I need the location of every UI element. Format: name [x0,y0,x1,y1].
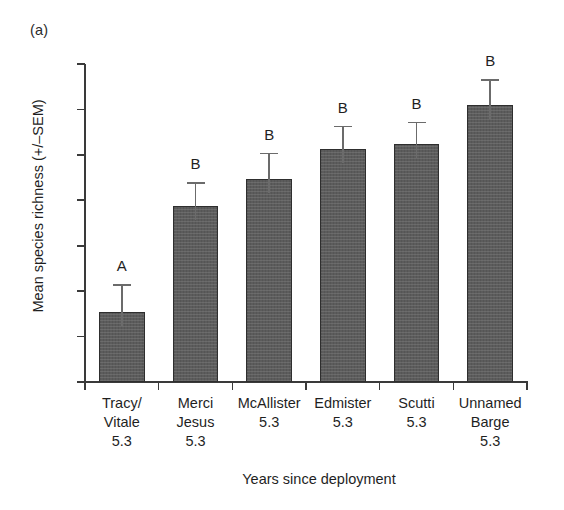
error-bar-cap [260,153,278,155]
bar-texture [395,145,439,381]
y-tick [77,109,85,111]
panel-label: (a) [30,22,48,38]
y-tick [77,290,85,292]
x-tick [158,381,160,390]
significance-letter: B [470,53,510,68]
bar-texture [321,150,365,381]
bar [320,149,366,382]
error-bar-stem [195,182,197,220]
bar [246,179,292,382]
significance-letter: B [397,96,437,111]
x-axis-title: Years since deployment [0,471,564,487]
significance-letter: B [176,156,216,171]
bar [173,206,219,382]
y-tick [77,63,85,65]
error-bar-stem [489,79,491,118]
error-bar-cap [481,79,499,81]
bar-texture [174,207,218,381]
x-tick [84,381,86,390]
x-tick [526,381,528,390]
error-bar-cap [408,122,426,124]
error-bar-cap [334,126,352,128]
significance-letter: B [249,127,289,142]
bar [467,105,513,382]
bar-texture [468,106,512,381]
error-bar-stem [416,122,418,159]
x-tick [305,381,307,390]
bar [394,144,440,382]
y-tick [77,245,85,247]
figure-panel-a: (a) 2423222120191817 ABBBBB Tracy/ Vital… [0,0,564,510]
error-bar-stem [268,153,270,193]
x-tick [453,381,455,390]
y-tick [77,154,85,156]
x-tick [379,381,381,390]
x-tick [232,381,234,390]
error-bar-stem [121,284,123,325]
bar-texture [247,180,291,381]
significance-letter: A [102,258,142,273]
y-axis-title: Mean species richness (+/–SEM) [30,41,46,371]
error-bar-cap [187,182,205,184]
error-bar-cap [113,284,131,286]
significance-letter: B [323,100,363,115]
error-bar-stem [342,126,344,164]
x-category-label: Unnamed Barge 5.3 [447,394,533,451]
y-tick [77,336,85,338]
y-tick [77,199,85,201]
